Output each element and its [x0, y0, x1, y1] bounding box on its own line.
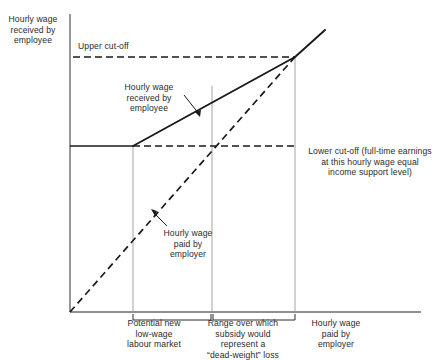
upper-cutoff-label: Upper cut-off	[78, 41, 129, 52]
bracket-label-dead-weight-loss: Range over which subsidy would represent…	[200, 318, 286, 360]
y-axis-label: Hourly wage received by employee	[2, 14, 64, 46]
bracket-label-low-wage-market: Potential new low-wage labour market	[118, 318, 190, 350]
x-axis-label: Hourly wage paid by employer	[304, 318, 368, 350]
diagram-canvas	[0, 0, 436, 360]
wage-paid-annotation: Hourly wage paid by employer	[150, 228, 226, 260]
wage-received-annotation: Hourly wage received by employee	[110, 82, 188, 114]
wage-subsidy-diagram: Hourly wage received by employee Upper c…	[0, 0, 436, 360]
lower-cutoff-annotation: Lower cut-off (full-time earnings at thi…	[306, 146, 434, 178]
